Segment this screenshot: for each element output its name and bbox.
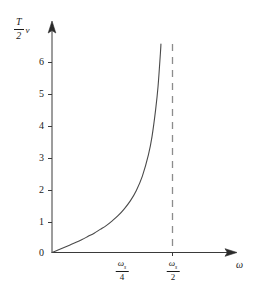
x-tick-label-quarter-numerator: ωs bbox=[116, 258, 129, 272]
x-tick-label-half-numerator: ωs bbox=[167, 258, 180, 272]
x-axis-title: ω bbox=[236, 260, 243, 270]
x-tick-label-half: ωs 2 bbox=[167, 258, 180, 283]
y-tick-label-6: 6 bbox=[28, 57, 44, 67]
y-axis-title: T 2 ν bbox=[14, 16, 30, 42]
x-axis bbox=[52, 249, 237, 257]
origin-label: 0 bbox=[28, 248, 44, 258]
y-axis bbox=[48, 21, 56, 253]
y-axis-title-numerator: T bbox=[14, 16, 24, 30]
y-tick-label-2: 2 bbox=[28, 185, 44, 195]
y-tick-label-4: 4 bbox=[28, 121, 44, 131]
y-tick-marks bbox=[48, 63, 52, 223]
x-tick-label-half-fraction: ωs 2 bbox=[167, 258, 180, 283]
x-tick-label-quarter-denominator: 4 bbox=[116, 272, 129, 283]
x-tick-label-quarter: ωs 4 bbox=[116, 258, 129, 283]
x-tick-label-quarter-fraction: ωs 4 bbox=[116, 258, 129, 283]
y-axis-title-denominator: 2 bbox=[14, 30, 24, 43]
y-tick-label-5: 5 bbox=[28, 89, 44, 99]
y-tick-label-3: 3 bbox=[28, 153, 44, 163]
y-axis-title-fraction: T 2 bbox=[14, 16, 24, 42]
x-tick-label-half-denominator: 2 bbox=[167, 272, 180, 283]
y-tick-label-1: 1 bbox=[28, 217, 44, 227]
y-axis-title-factor: ν bbox=[26, 25, 30, 35]
chart-figure: T 2 ν 6 5 4 3 2 1 0 ωs 4 ωs 2 ω bbox=[0, 0, 260, 298]
data-curve bbox=[52, 44, 161, 253]
